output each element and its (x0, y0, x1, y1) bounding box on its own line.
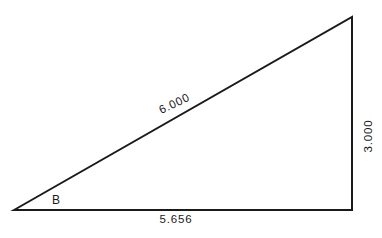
base-length-label: 5.656 (160, 213, 193, 225)
height-length-label: 3.000 (362, 120, 374, 153)
triangle-outline (14, 17, 352, 210)
angle-b-label: B (52, 193, 60, 207)
triangle-svg: 6.000 5.656 3.000 B (0, 0, 382, 238)
triangle-diagram: 6.000 5.656 3.000 B (0, 0, 382, 238)
